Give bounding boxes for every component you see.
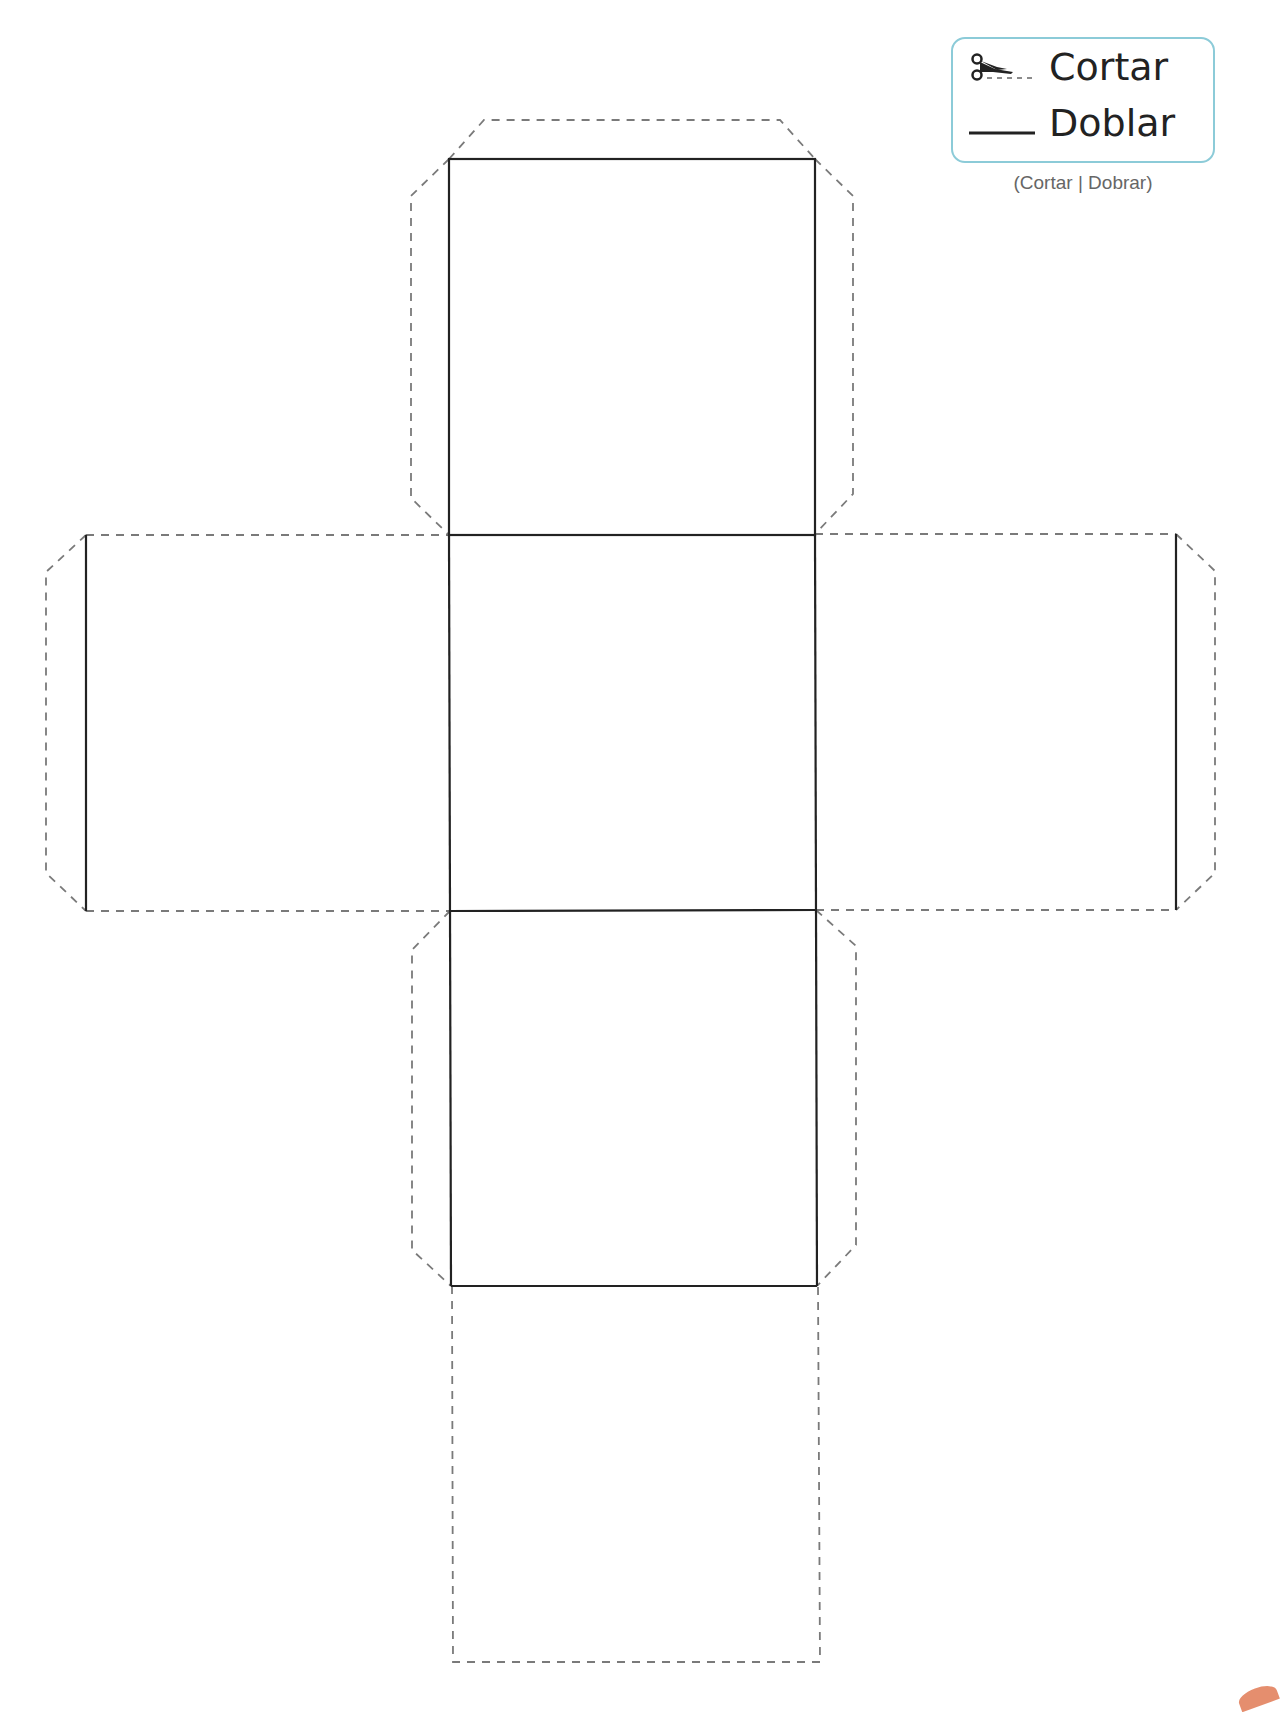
scissors-icon — [967, 45, 1037, 89]
legend-cut-label: Cortar — [1049, 45, 1168, 89]
middle-face-left-edge — [449, 535, 450, 911]
top-face — [449, 159, 815, 535]
bottom-extension-cut — [452, 1286, 820, 1662]
bottom-face-left-flap-cut — [412, 911, 451, 1286]
bottom-face-right-edge — [816, 910, 817, 1286]
legend-box: Cortar Doblar — [951, 37, 1215, 163]
cut-lines — [46, 120, 1215, 1662]
middle-face-right-edge — [815, 535, 816, 910]
middle-face-bottom-edge — [450, 910, 816, 911]
legend-cut-row: Cortar — [967, 45, 1168, 89]
top-face-right-flap-cut — [815, 159, 853, 534]
top-flap-cut — [449, 120, 815, 159]
top-face-left-flap-cut — [411, 159, 449, 535]
legend-fold-row: Doblar — [967, 101, 1175, 145]
fold-lines — [86, 159, 1176, 1286]
left-face-flap-cut — [46, 535, 86, 911]
legend-caption: (Cortar | Dobrar) — [951, 172, 1215, 194]
solid-line-icon — [967, 101, 1037, 145]
right-face-flap-cut — [1176, 534, 1215, 910]
legend-fold-label: Doblar — [1049, 101, 1175, 145]
bottom-face-right-flap-cut — [816, 910, 856, 1286]
bottom-face-left-edge — [450, 911, 451, 1286]
